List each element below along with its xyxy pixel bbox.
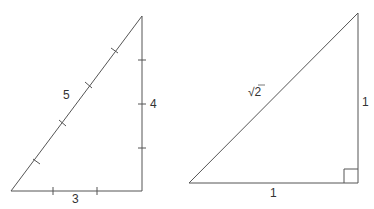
triangle-isosceles-right (189, 13, 358, 183)
triangle-3-4-5 (11, 16, 146, 195)
vertical-side-label: 1 (362, 95, 369, 109)
right-angle-marker (344, 169, 358, 183)
tick-mark (33, 159, 40, 164)
base-label: 1 (270, 186, 277, 200)
triangle-outline (189, 13, 358, 183)
triangles-diagram: 5 4 3 √2 1 1 (0, 0, 374, 209)
base-label: 3 (72, 192, 79, 206)
vertical-side-label: 4 (150, 97, 157, 111)
hypotenuse-label: √2 (248, 85, 262, 99)
hypotenuse-label: 5 (63, 88, 70, 102)
triangle-outline (11, 16, 142, 191)
